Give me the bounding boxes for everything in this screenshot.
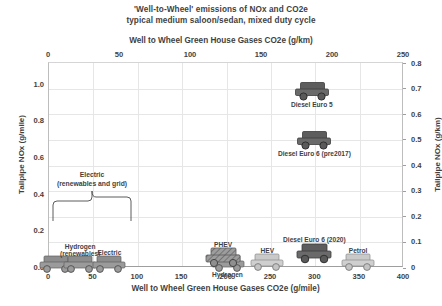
data-point-label: Hydrogen [212,271,243,278]
right-tick-0-6: 0.6 [411,110,422,119]
annotation-label-line-2: (renewables and grid) [27,180,157,189]
gridline-v-200 [227,63,228,266]
right-tick-0-5: 0.5 [411,135,422,144]
top-tick-200: 200 [326,50,339,59]
chart-title-line-2: typical medium saloon/sedan, mixed duty … [0,15,442,26]
car-icon [294,81,329,102]
data-point-label: Diesel Euro 5 [291,101,333,108]
bottom-tick-350: 350 [352,272,365,281]
gridline-v-250 [271,63,272,266]
right-axis-title: Tailpipe NOx (g/km) [433,100,442,210]
data-point-label: Diesel Euro 6 (2020) [283,236,346,243]
gridline-v-350 [360,63,361,266]
gridline-h-0-6 [49,114,402,115]
left-tick-1-0: 1.0 [24,80,44,89]
right-tick-0-8: 0.8 [411,59,422,68]
left-axis-title: Tailpipe NOx (g/mile) [17,100,26,210]
top-axis-title: Well to Wheel Green House Gases CO2e (g/… [0,36,442,45]
right-tick-0: 0 [411,263,415,272]
bottom-tick-150: 150 [175,272,188,281]
gridline-h-0-5 [49,140,402,141]
right-tick-0-7: 0.7 [411,84,422,93]
chart-figure: 'Well-to-Wheel' emissions of NOx and CO2… [0,0,442,306]
gridline-v-150 [182,63,183,266]
gridline-v-50 [93,63,94,266]
bottom-axis-title: Well to Wheel Green House Gases CO2e (g/… [48,284,403,293]
car-icon [250,252,284,272]
data-point-label: HEV [261,247,275,254]
data-point-diesel-euro6-2020[interactable]: Diesel Euro 6 (2020) [296,242,332,264]
data-point-petrol[interactable]: Petrol [341,252,375,272]
top-tick-100: 100 [184,50,197,59]
top-tick-0: 0 [46,50,50,59]
annotation-label: Electric (renewables and grid) [27,171,157,188]
chart-title: 'Well-to-Wheel' emissions of NOx and CO2… [0,4,442,26]
top-tick-50: 50 [115,50,123,59]
right-tick-0-3: 0.3 [411,186,422,195]
right-tick-0-1: 0.1 [411,237,422,246]
annotation-electric-bracket: Electric (renewables and grid) [51,171,133,233]
left-tick-0-6: 0.6 [24,153,44,162]
data-point-label: Electric [97,249,121,256]
data-point-electric-grid[interactable]: Electric [92,254,126,274]
bottom-tick-250: 250 [264,272,277,281]
gridline-h-0-7 [49,89,402,90]
car-icon [205,246,241,268]
bottom-tick-300: 300 [308,272,321,281]
right-tick-0-4: 0.4 [411,161,422,170]
data-point-label: Diesel Euro 6 (pre2017) [278,149,351,156]
gridline-h-0-4 [49,166,402,167]
curly-bracket-icon [51,190,133,222]
bottom-tick-400: 400 [397,272,410,281]
car-icon [297,129,332,150]
data-point-hev[interactable]: HEV [250,252,284,272]
left-tick-0-8: 0.8 [24,116,44,125]
left-tick-0-4: 0.4 [24,190,44,199]
annotation-label-line-1: Electric [27,171,157,180]
right-tick-0-2: 0.2 [411,212,422,221]
top-tick-250: 250 [397,50,410,59]
top-tick-150: 150 [255,50,268,59]
gridline-v-100 [138,63,139,266]
bottom-tick-100: 100 [130,272,143,281]
data-point-diesel-euro6-pre2017[interactable]: Diesel Euro 6 (pre2017) [297,129,332,150]
left-tick-0-2: 0.2 [24,226,44,235]
data-point-phev[interactable]: PHEV [205,246,241,268]
plot-area: Electric (renewables and grid) [48,62,403,267]
chart-title-line-1: 'Well-to-Wheel' emissions of NOx and CO2… [0,4,442,15]
car-icon [341,252,375,272]
car-icon [296,242,332,264]
data-point-label: Petrol [349,247,368,254]
data-point-label: PHEV [214,241,232,248]
car-icon [92,254,126,274]
data-point-diesel-euro5[interactable]: Diesel Euro 5 [294,81,329,102]
